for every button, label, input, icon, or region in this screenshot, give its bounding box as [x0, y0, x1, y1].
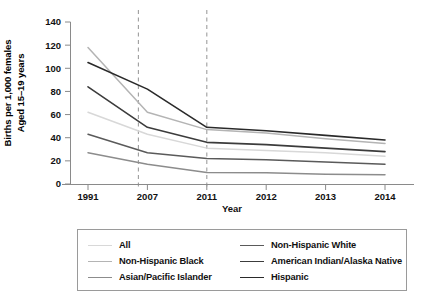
y-tick-label: 20: [50, 155, 61, 166]
series-lines: [88, 47, 385, 174]
legend-color-swatch: [88, 277, 112, 278]
y-axis-ticks: 020406080100120140: [45, 16, 70, 189]
x-tick-label: 2013: [315, 191, 336, 202]
y-tick-label: 120: [45, 40, 61, 51]
reference-dashed-lines: [138, 10, 206, 188]
y-tick-label: 140: [45, 16, 61, 27]
legend-item-label: Non-Hispanic White: [271, 240, 356, 250]
x-axis-title: Year: [222, 203, 242, 214]
x-tick-label: 2014: [374, 191, 396, 202]
legend-item-label: Asian/Pacific Islander: [119, 272, 212, 282]
x-tick-label: 2012: [256, 191, 277, 202]
x-axis-ticks: 199120072011201220132014: [77, 185, 396, 203]
legend-color-swatch: [240, 277, 264, 278]
y-tick-label: 80: [50, 86, 61, 97]
y-axis-title-line-1: Births per 1,000 females: [2, 18, 15, 168]
y-axis-title-line-2: Aged 15–19 years: [15, 18, 28, 168]
line-chart-svg: 020406080100120140 199120072011201220132…: [0, 0, 422, 222]
legend-item-label: All: [119, 240, 130, 250]
x-tick-label: 2007: [137, 191, 158, 202]
legend-color-swatch: [240, 245, 264, 246]
legend-color-swatch: [240, 261, 264, 262]
chart-legend: AllNon-Hispanic WhiteNon-Hispanic BlackA…: [77, 229, 407, 291]
legend-item[interactable]: Asian/Pacific Islander: [88, 269, 240, 285]
legend-item-label: Non-Hispanic Black: [119, 256, 204, 266]
legend-item[interactable]: Non-Hispanic White: [240, 237, 403, 253]
y-axis-title: Births per 1,000 females Aged 15–19 year…: [2, 18, 42, 168]
legend-color-swatch: [88, 261, 112, 262]
x-tick-label: 2011: [196, 191, 217, 202]
legend-item-grid: AllNon-Hispanic WhiteNon-Hispanic BlackA…: [88, 237, 403, 285]
y-tick-label: 40: [50, 132, 61, 143]
chart-figure: Births per 1,000 females Aged 15–19 year…: [0, 0, 422, 300]
legend-item[interactable]: American Indian/Alaska Native: [240, 253, 403, 269]
x-tick-label: 1991: [77, 191, 99, 202]
legend-color-swatch: [88, 245, 112, 246]
y-tick-label: 60: [50, 109, 61, 120]
y-tick-label: 100: [45, 63, 61, 74]
plot-area-wrapper: Births per 1,000 females Aged 15–19 year…: [0, 0, 422, 222]
legend-item-label: American Indian/Alaska Native: [271, 256, 402, 266]
series-line: [88, 153, 385, 175]
legend-item[interactable]: Non-Hispanic Black: [88, 253, 240, 269]
y-tick-label: 0: [56, 178, 61, 189]
legend-item[interactable]: All: [88, 237, 240, 253]
legend-item-label: Hispanic: [271, 272, 309, 282]
legend-item[interactable]: Hispanic: [240, 269, 403, 285]
